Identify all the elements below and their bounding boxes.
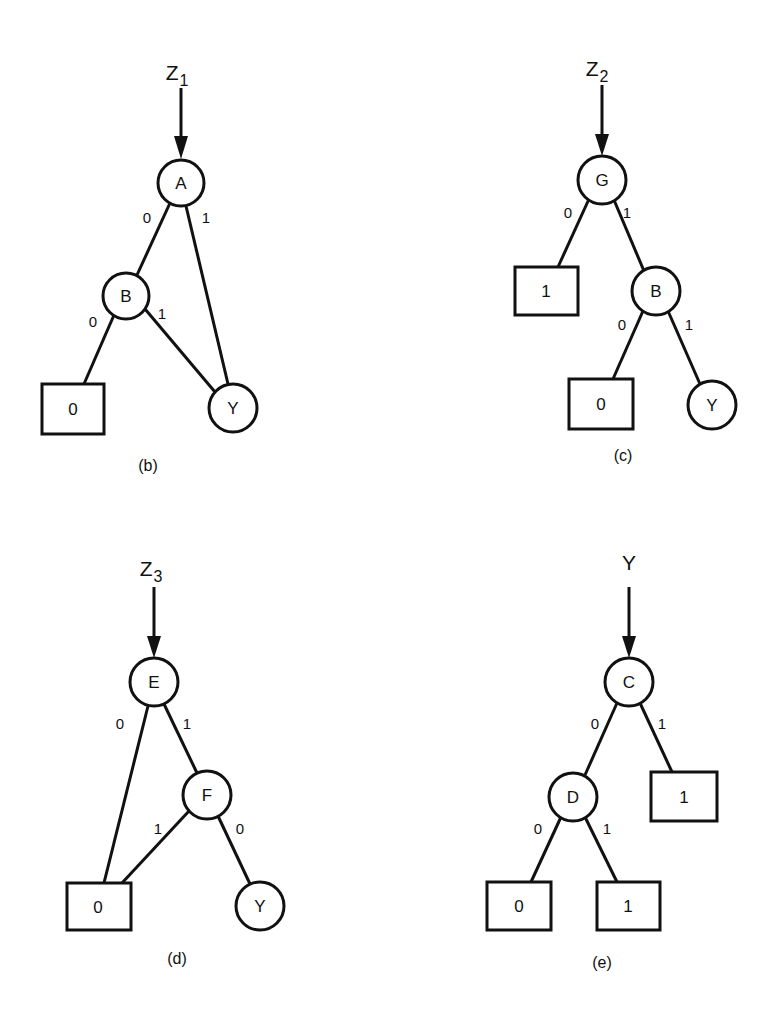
arrowhead-icon: [147, 636, 161, 658]
node-G: G: [578, 156, 626, 204]
terminal-0: 0: [487, 882, 551, 930]
edge-label: 1: [685, 316, 693, 333]
edge-label: 0: [116, 715, 124, 732]
terminal-0: 0: [67, 883, 131, 930]
svg-text:0: 0: [93, 898, 102, 917]
edge-label: 1: [158, 305, 166, 322]
svg-text:0: 0: [596, 395, 605, 414]
node-E: E: [130, 658, 178, 706]
node-Y: Y: [236, 882, 284, 930]
edge-D-1: [585, 817, 617, 882]
edge-label: 0: [143, 209, 151, 226]
root-label-y: Y: [622, 551, 636, 574]
arrowhead-icon: [595, 134, 609, 156]
node-A: A: [158, 160, 204, 206]
node-C: C: [605, 658, 653, 706]
edge-C-1: [640, 703, 672, 772]
svg-text:G: G: [595, 171, 608, 190]
diagram-b: Z1 0 1 0 1 A B 0 Y (b): [42, 61, 257, 474]
edge-label: 0: [89, 313, 97, 330]
edge-E-F: [164, 704, 197, 773]
edge-label: 0: [564, 204, 572, 221]
edge-label: 1: [658, 715, 666, 732]
edge-F-Y: [218, 816, 250, 884]
svg-text:A: A: [175, 174, 187, 193]
svg-text:D: D: [567, 788, 579, 807]
svg-text:Y: Y: [706, 396, 717, 415]
terminal-1: 1: [651, 772, 717, 821]
node-F: F: [183, 771, 231, 819]
svg-text:0: 0: [68, 400, 77, 419]
svg-text:B: B: [120, 287, 131, 306]
terminal-0: 0: [569, 379, 633, 429]
root-arrow: [595, 85, 609, 156]
svg-text:B: B: [650, 282, 661, 301]
edge-B-Y: [145, 309, 215, 392]
edge-E-0: [104, 706, 148, 883]
node-B: B: [103, 273, 149, 319]
caption-e: (e): [592, 954, 612, 971]
caption-d: (d): [167, 950, 187, 967]
diagram-e: Y 0 1 0 1 C 1 D 0 1 (: [487, 551, 717, 971]
edge-A-Y: [186, 206, 228, 384]
root-label-z2: Z2: [586, 57, 609, 85]
svg-text:C: C: [623, 673, 635, 692]
edge-label: 1: [154, 820, 162, 837]
svg-text:1: 1: [541, 282, 550, 301]
root-label-z3: Z3: [140, 557, 163, 585]
arrowhead-icon: [622, 636, 636, 658]
svg-text:Y: Y: [227, 399, 238, 418]
svg-text:Y: Y: [254, 897, 265, 916]
edge-label: 1: [202, 209, 210, 226]
terminal-1: 1: [515, 267, 578, 315]
node-D: D: [549, 773, 597, 821]
diagram-c: Z2 0 1 0 1 G 1 B 0 Y: [515, 57, 736, 464]
terminal-1: 1: [597, 882, 660, 930]
edge-G-1: [558, 199, 589, 267]
svg-text:1: 1: [623, 897, 632, 916]
node-Y: Y: [688, 381, 736, 429]
edge-label: 1: [603, 820, 611, 837]
caption-b: (b): [138, 457, 158, 474]
root-arrow: [147, 587, 161, 658]
edge-C-D: [585, 703, 617, 775]
edge-label: 0: [534, 820, 542, 837]
root-arrow: [622, 587, 636, 658]
root-label-z1: Z1: [166, 61, 189, 89]
svg-text:E: E: [148, 673, 159, 692]
caption-c: (c): [614, 447, 633, 464]
edge-label: 0: [236, 820, 244, 837]
edge-label: 1: [623, 204, 631, 221]
diagram-d: Z3 0 1 1 0 E F 0 Y (d): [67, 557, 284, 967]
node-Y: Y: [209, 384, 257, 432]
edge-label: 0: [618, 316, 626, 333]
terminal-0: 0: [42, 384, 104, 434]
node-B: B: [632, 267, 680, 315]
svg-text:0: 0: [514, 897, 523, 916]
arrowhead-icon: [174, 136, 188, 159]
svg-text:F: F: [202, 786, 212, 805]
edge-label: 0: [591, 715, 599, 732]
svg-text:1: 1: [679, 788, 688, 807]
bdd-figure: Z1 0 1 0 1 A B 0 Y (b): [0, 0, 772, 1010]
root-arrow: [174, 88, 188, 159]
edge-label: 1: [183, 715, 191, 732]
